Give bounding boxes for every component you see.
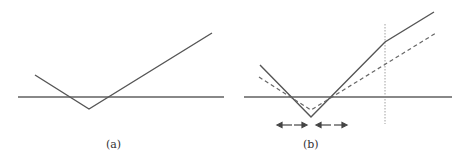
solid-curve-b — [260, 12, 434, 117]
arrows-row — [277, 123, 347, 128]
panel-b — [244, 12, 452, 128]
dashed-curve-b — [259, 33, 436, 110]
caption-a: (a) — [106, 138, 121, 151]
panel-a — [18, 33, 224, 109]
diagram-canvas — [0, 0, 462, 159]
caption-b: (b) — [303, 138, 319, 151]
